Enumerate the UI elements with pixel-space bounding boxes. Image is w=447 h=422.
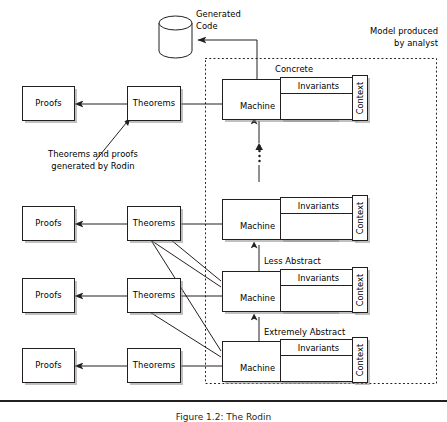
figure-caption: Figure 1.2: The Rodin xyxy=(0,412,447,422)
machine-group-less-abstract: Machine Invariants Context xyxy=(222,269,392,314)
theorems-box-less-abstract[interactable]: Theorems xyxy=(127,278,181,313)
machine-box-extremely-abstract-right[interactable] xyxy=(280,355,357,382)
rodin-annotation-label: Theorems and proofsgenerated by Rodin xyxy=(14,149,172,172)
machine-group-middle: Machine Invariants Context xyxy=(222,197,392,242)
proofs-box-concrete[interactable]: Proofs xyxy=(22,86,75,121)
machine-label-extremely-abstract: Machine xyxy=(240,363,275,373)
machine-box-concrete-right[interactable] xyxy=(280,93,357,120)
invariants-box-extremely-abstract[interactable]: Invariants xyxy=(280,339,357,356)
theorems-box-extremely-abstract[interactable]: Theorems xyxy=(127,348,181,383)
generated-code-cylinder xyxy=(159,16,192,58)
context-box-concrete[interactable]: Context xyxy=(352,75,368,121)
invariants-box-less-abstract[interactable]: Invariants xyxy=(280,269,357,286)
machine-box-middle-right[interactable] xyxy=(280,213,357,240)
context-box-less-abstract[interactable]: Context xyxy=(352,267,368,313)
invariants-box-middle[interactable]: Invariants xyxy=(280,197,357,214)
machine-label-less-abstract: Machine xyxy=(240,293,275,303)
machine-label-concrete: Machine xyxy=(240,101,275,111)
machine-label-middle: Machine xyxy=(240,221,275,231)
proofs-box-middle[interactable]: Proofs xyxy=(22,206,75,241)
caption-rule xyxy=(0,400,447,402)
machine-group-extremely-abstract: Machine Invariants Context xyxy=(222,339,392,384)
tier-label-extremely-abstract: Extremely Abstract xyxy=(264,327,345,339)
context-box-extremely-abstract[interactable]: Context xyxy=(352,337,368,383)
tier-label-less-abstract: Less Abstract xyxy=(264,256,321,268)
theorems-box-middle[interactable]: Theorems xyxy=(127,206,181,241)
generated-code-label: GeneratedCode xyxy=(196,9,241,32)
proofs-box-less-abstract[interactable]: Proofs xyxy=(22,278,75,313)
tier-label-concrete: Concrete xyxy=(275,64,313,76)
refinement-diagram-figure: GeneratedCode Model producedby analyst T… xyxy=(0,0,447,422)
analyst-model-label: Model producedby analyst xyxy=(316,26,438,49)
theorems-box-concrete[interactable]: Theorems xyxy=(127,86,181,121)
invariants-box-concrete[interactable]: Invariants xyxy=(280,77,357,94)
machine-group-concrete: Machine Invariants Context xyxy=(222,77,392,122)
context-box-middle[interactable]: Context xyxy=(352,195,368,241)
proofs-box-extremely-abstract[interactable]: Proofs xyxy=(22,348,75,383)
arrow-machine-to-code xyxy=(198,40,257,79)
machine-box-less-abstract-right[interactable] xyxy=(280,285,357,312)
